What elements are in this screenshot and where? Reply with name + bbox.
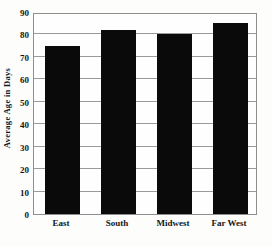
- bar: [45, 46, 80, 214]
- x-axis-tick-labels: EastSouthMidwestFar West: [33, 218, 257, 234]
- y-tick-label: 30: [11, 143, 29, 152]
- bar: [213, 23, 248, 214]
- y-tick-label: 20: [11, 166, 29, 175]
- x-tick-label: Far West: [201, 218, 257, 229]
- y-tick-label: 10: [11, 188, 29, 197]
- y-axis-tick-labels: 0102030405060708090: [13, 0, 31, 228]
- y-tick-label: 70: [11, 53, 29, 62]
- y-tick-label: 50: [11, 98, 29, 107]
- x-tick-label: Midwest: [145, 218, 201, 229]
- x-tick-label: East: [33, 218, 89, 229]
- bars-group: [34, 14, 256, 214]
- bar: [101, 30, 136, 214]
- plot-area: [33, 13, 257, 215]
- x-tick-label: South: [89, 218, 145, 229]
- y-tick-label: 90: [11, 9, 29, 18]
- y-tick-label: 80: [11, 31, 29, 40]
- bar-chart-figure: Average Age in Days 0102030405060708090 …: [0, 0, 272, 246]
- bar: [157, 34, 192, 214]
- y-tick-label: 40: [11, 121, 29, 130]
- y-tick-label: 0: [11, 211, 29, 220]
- y-tick-label: 60: [11, 76, 29, 85]
